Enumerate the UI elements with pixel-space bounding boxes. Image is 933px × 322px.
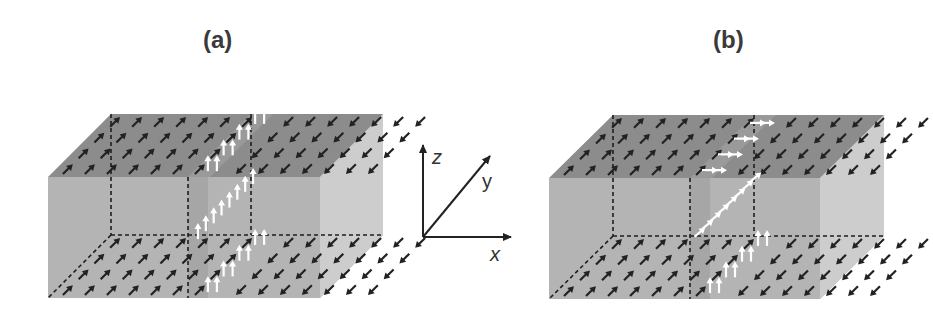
spin-arrow-icon bbox=[397, 251, 412, 266]
spin-arrow-icon bbox=[884, 268, 899, 283]
domain-wall-diagram bbox=[0, 0, 933, 322]
z-axis-label: z bbox=[432, 146, 442, 169]
spin-arrow-icon bbox=[359, 267, 374, 282]
spin-arrow-icon bbox=[391, 114, 406, 129]
spin-arrow-icon bbox=[878, 252, 893, 267]
spin-arrow-icon bbox=[894, 236, 909, 251]
spin-arrow-icon bbox=[365, 283, 380, 298]
spin-arrow-icon bbox=[916, 115, 931, 130]
spin-arrow-icon bbox=[900, 252, 915, 267]
spin-arrow-icon bbox=[413, 114, 428, 129]
spin-arrow-icon bbox=[868, 284, 883, 299]
spin-arrow-icon bbox=[381, 146, 396, 161]
spin-arrow-icon bbox=[397, 130, 412, 145]
y-axis-label: y bbox=[482, 170, 492, 193]
spin-arrow-icon bbox=[391, 235, 406, 250]
front-face bbox=[48, 177, 320, 298]
panel-a-box bbox=[48, 108, 428, 298]
panel-b-box bbox=[549, 115, 930, 299]
wall-front-strip bbox=[690, 178, 710, 299]
spin-arrow-icon bbox=[916, 236, 931, 251]
spin-arrow-icon bbox=[381, 267, 396, 282]
spin-arrow-icon bbox=[375, 251, 390, 266]
spin-arrow-icon bbox=[894, 115, 909, 130]
spin-arrow-icon bbox=[900, 131, 915, 146]
front-face bbox=[549, 178, 820, 299]
spin-arrow-icon bbox=[884, 147, 899, 162]
x-axis-label: x bbox=[490, 243, 500, 266]
spin-arrow-icon bbox=[862, 268, 877, 283]
spin-arrow-icon bbox=[846, 284, 861, 299]
spin-arrow-icon bbox=[343, 283, 358, 298]
